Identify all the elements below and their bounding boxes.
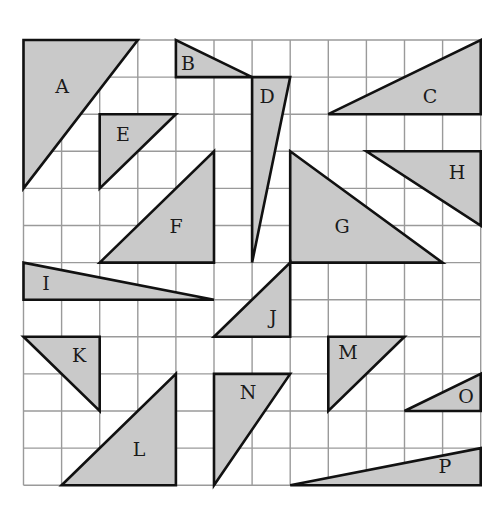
triangle-label-p: P — [439, 455, 452, 477]
triangle-label-l: L — [133, 438, 146, 460]
triangle-label-n: N — [240, 381, 257, 403]
triangle-label-h: H — [449, 161, 466, 183]
triangle-label-a: A — [54, 75, 69, 97]
triangle-label-b: B — [181, 52, 195, 74]
triangle-label-d: D — [259, 85, 274, 107]
triangle-label-o: O — [458, 385, 474, 407]
triangle-label-m: M — [338, 341, 357, 363]
triangle-label-f: F — [169, 215, 182, 237]
triangle-label-k: K — [72, 344, 87, 366]
triangle-label-i: I — [42, 272, 50, 294]
triangle-p — [290, 448, 481, 485]
triangle-label-g: G — [334, 215, 349, 237]
triangle-label-c: C — [423, 85, 438, 107]
triangle-i — [24, 263, 215, 300]
triangle-label-j: J — [267, 306, 277, 328]
triangle-grid-figure: ABCDEFGHIJKLMNOP — [0, 0, 501, 509]
triangle-label-e: E — [116, 123, 130, 145]
